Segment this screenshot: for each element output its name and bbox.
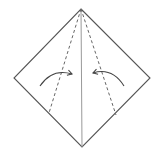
origami-diagram [0,0,160,161]
diagram-canvas [0,0,160,161]
